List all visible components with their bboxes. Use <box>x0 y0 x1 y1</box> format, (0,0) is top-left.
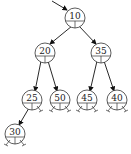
binary-tree-diagram: 10 20 35 25 50 45 40 <box>0 0 131 154</box>
tree-node: 45 <box>76 90 98 112</box>
null-pointer-icon <box>37 106 43 112</box>
tree-node: 10 <box>65 8 85 28</box>
tree-node: 30 <box>4 124 26 146</box>
node-value: 50 <box>54 93 66 103</box>
node-value: 45 <box>81 93 93 103</box>
tree-node: 40 <box>106 90 128 112</box>
tree-node: 35 <box>91 43 111 63</box>
node-value: 10 <box>69 11 81 21</box>
root-pointer-arrow <box>52 1 67 10</box>
tree-node: 50 <box>49 90 71 112</box>
node-value: 30 <box>9 127 21 137</box>
node-value: 35 <box>95 46 107 56</box>
node-value: 20 <box>39 46 51 56</box>
tree-node: 25 <box>22 90 43 112</box>
node-value: 40 <box>111 93 123 103</box>
tree-node: 20 <box>35 43 55 63</box>
node-value: 25 <box>26 93 38 103</box>
